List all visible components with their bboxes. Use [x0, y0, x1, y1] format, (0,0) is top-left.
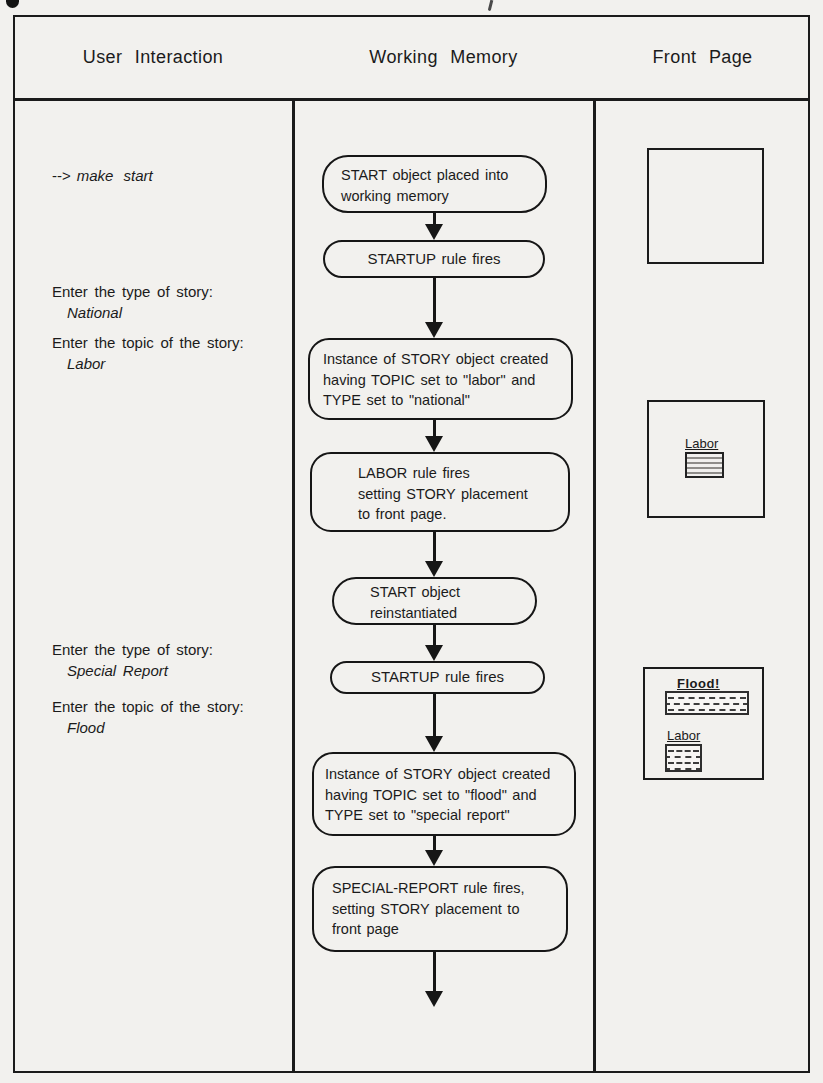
node-line: TYPE set to "special report" — [325, 805, 574, 826]
wm-node-special-report-fires: SPECIAL-REPORT rule fires, setting STORY… — [312, 866, 568, 952]
texture-row — [668, 762, 699, 764]
node-line: Instance of STORY object created — [325, 764, 574, 785]
node-line: having TOPIC set to "flood" and — [325, 785, 574, 806]
caption-fragment-middle — [488, 0, 494, 11]
user-prompt: Enter the topic of the story: Labor — [52, 333, 244, 373]
flow-arrow-head — [425, 436, 443, 452]
wm-node-labor-rule-fires: LABOR rule fires setting STORY placement… — [310, 452, 570, 532]
column-header-front-page: Front Page — [594, 47, 811, 68]
story-headline: Labor — [685, 437, 718, 451]
story-headline: Flood! — [677, 677, 720, 691]
texture-row — [665, 768, 702, 770]
flow-arrow-head — [425, 736, 443, 752]
node-line: setting STORY placement to — [332, 899, 566, 920]
prompt-text: Enter the type of story: — [52, 640, 213, 659]
column-divider-1 — [292, 100, 295, 1071]
column-header-working-memory: Working Memory — [293, 47, 594, 68]
user-response: National — [67, 303, 213, 322]
prompt-text: Enter the topic of the story: — [52, 333, 244, 352]
texture-row — [668, 750, 699, 752]
flow-arrow-head — [425, 645, 443, 661]
flow-arrow-head — [425, 850, 443, 866]
node-line: STARTUP rule fires — [371, 667, 504, 688]
user-response: Special Report — [67, 661, 213, 680]
front-page-panel-flood-labor: Flood! Labor — [643, 667, 764, 780]
wm-node-start-reinstantiated: START object reinstantiated — [332, 577, 537, 625]
story-block-striped-icon — [685, 452, 724, 478]
user-command: -->make start — [52, 166, 153, 185]
prompt-text: Enter the type of story: — [52, 282, 213, 301]
flow-arrow-head — [425, 991, 443, 1007]
node-line: to front page. — [358, 504, 568, 525]
flow-arrow-line — [433, 952, 436, 993]
wm-node-startup-fires-1: STARTUP rule fires — [323, 240, 545, 278]
front-page-panel-labor: Labor — [647, 400, 765, 518]
node-line: setting STORY placement — [358, 484, 568, 505]
command-text: make start — [77, 167, 153, 184]
texture-row — [665, 703, 749, 705]
wm-node-story-labor-created: Instance of STORY object created having … — [308, 338, 573, 420]
texture-row — [668, 697, 746, 699]
user-prompt: Enter the type of story: National — [52, 282, 213, 322]
user-prompt: Enter the topic of the story: Flood — [52, 697, 244, 737]
command-prefix: --> — [52, 167, 71, 184]
texture-row — [668, 709, 746, 711]
user-prompt: Enter the type of story: Special Report — [52, 640, 213, 680]
column-divider-2 — [593, 100, 596, 1071]
node-line: having TOPIC set to "labor" and — [323, 370, 571, 391]
header-separator — [15, 98, 808, 101]
column-header-user-interaction: User Interaction — [13, 47, 293, 68]
wm-node-startup-fires-2: STARTUP rule fires — [330, 661, 545, 694]
flow-arrow-head — [425, 561, 443, 577]
wm-node-story-flood-created: Instance of STORY object created having … — [312, 752, 576, 836]
figure-page: User Interaction Working Memory Front Pa… — [0, 0, 823, 1083]
caption-fragment-left — [6, 0, 19, 8]
node-line: Instance of STORY object created — [323, 349, 571, 370]
flow-arrow-line — [433, 694, 436, 738]
flow-arrow-line — [433, 625, 436, 647]
node-line: reinstantiated — [370, 603, 535, 624]
story-headline: Labor — [667, 729, 700, 743]
story-block-dotted-icon — [665, 744, 702, 772]
node-line: TYPE set to "national" — [323, 390, 571, 411]
prompt-text: Enter the topic of the story: — [52, 697, 244, 716]
node-line: front page — [332, 919, 566, 940]
node-line: START object placed into — [341, 165, 545, 186]
flow-arrow-head — [425, 224, 443, 240]
front-page-panel-empty — [647, 148, 764, 264]
flow-arrow-line — [433, 532, 436, 563]
texture-row — [665, 756, 702, 758]
story-block-dotted-icon — [665, 691, 749, 715]
flow-arrow-head — [425, 322, 443, 338]
wm-node-start-placed: START object placed into working memory — [322, 155, 547, 213]
user-response: Labor — [67, 354, 244, 373]
node-line: SPECIAL-REPORT rule fires, — [332, 878, 566, 899]
node-line: working memory — [341, 186, 545, 207]
flow-arrow-line — [433, 278, 436, 324]
user-response: Flood — [67, 718, 244, 737]
node-line: STARTUP rule fires — [367, 249, 500, 270]
node-line: START object — [370, 582, 535, 603]
node-line: LABOR rule fires — [358, 463, 568, 484]
